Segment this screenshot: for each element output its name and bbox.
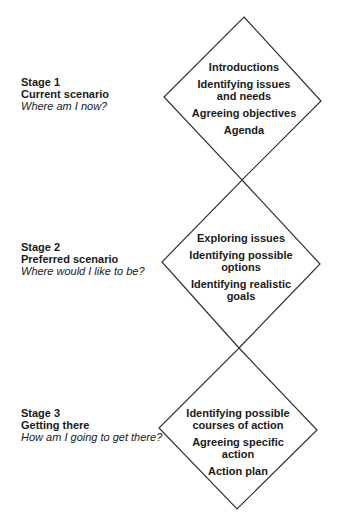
- stage-3-items: Identifying possible courses of action A…: [178, 407, 298, 477]
- stage-1-label: Stage 1 Current scenario Where am I now?: [21, 76, 109, 112]
- stage-3-name: Getting there: [21, 419, 162, 431]
- stage-1-item: Agenda: [184, 124, 304, 136]
- stage-2-label: Stage 2 Preferred scenario Where would I…: [21, 241, 145, 277]
- stage-1-item: Introductions: [184, 61, 304, 73]
- stage-2-question: Where would I like to be?: [21, 265, 145, 277]
- stage-3-item: Identifying possible courses of action: [178, 407, 298, 431]
- stage-2-item: Exploring issues: [181, 232, 301, 244]
- stage-3-item: Action plan: [178, 465, 298, 477]
- stage-2-items: Exploring issues Identifying possible op…: [181, 232, 301, 302]
- stage-2-item: Identifying realistic goals: [181, 278, 301, 302]
- stage-3-question: How am I going to get there?: [21, 431, 162, 443]
- stage-3-label: Stage 3 Getting there How am I going to …: [21, 407, 162, 443]
- stage-1-question: Where am I now?: [21, 100, 109, 112]
- stage-2-name: Preferred scenario: [21, 253, 145, 265]
- stage-3-item: Agreeing specific action: [178, 436, 298, 460]
- stage-1-name: Current scenario: [21, 88, 109, 100]
- stage-1-item: Agreeing objectives: [184, 107, 304, 119]
- stage-1-item: Identifying issues and needs: [184, 78, 304, 102]
- stage-3-number: Stage 3: [21, 407, 162, 419]
- stage-2-item: Identifying possible options: [181, 249, 301, 273]
- stage-1-items: Introductions Identifying issues and nee…: [184, 61, 304, 136]
- stage-1-number: Stage 1: [21, 76, 109, 88]
- stage-2-number: Stage 2: [21, 241, 145, 253]
